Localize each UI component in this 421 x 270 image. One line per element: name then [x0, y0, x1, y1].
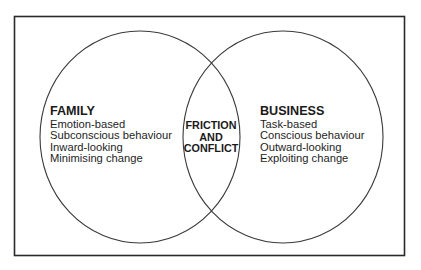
- business-title: BUSINESS: [260, 104, 324, 118]
- business-item: Task-based: [260, 118, 317, 130]
- business-item: Exploiting change: [260, 152, 348, 164]
- intersection-line: AND: [199, 131, 223, 143]
- intersection-line: CONFLICT: [184, 142, 239, 154]
- family-item: Minimising change: [50, 152, 143, 164]
- family-item: Emotion-based: [50, 118, 125, 130]
- business-item: Conscious behaviour: [260, 129, 365, 141]
- family-item: Subconscious behaviour: [50, 129, 172, 141]
- business-item: Outward-looking: [260, 141, 341, 153]
- family-title: FAMILY: [50, 104, 96, 118]
- intersection-line: FRICTION: [186, 119, 237, 131]
- business-set-label: BUSINESS Task-based Conscious behaviour …: [260, 104, 365, 164]
- family-item: Inward-looking: [50, 141, 123, 153]
- family-set-label: FAMILY Emotion-based Subconscious behavi…: [50, 104, 172, 164]
- intersection-label: FRICTION AND CONFLICT: [184, 119, 239, 154]
- venn-diagram: FAMILY Emotion-based Subconscious behavi…: [0, 0, 421, 270]
